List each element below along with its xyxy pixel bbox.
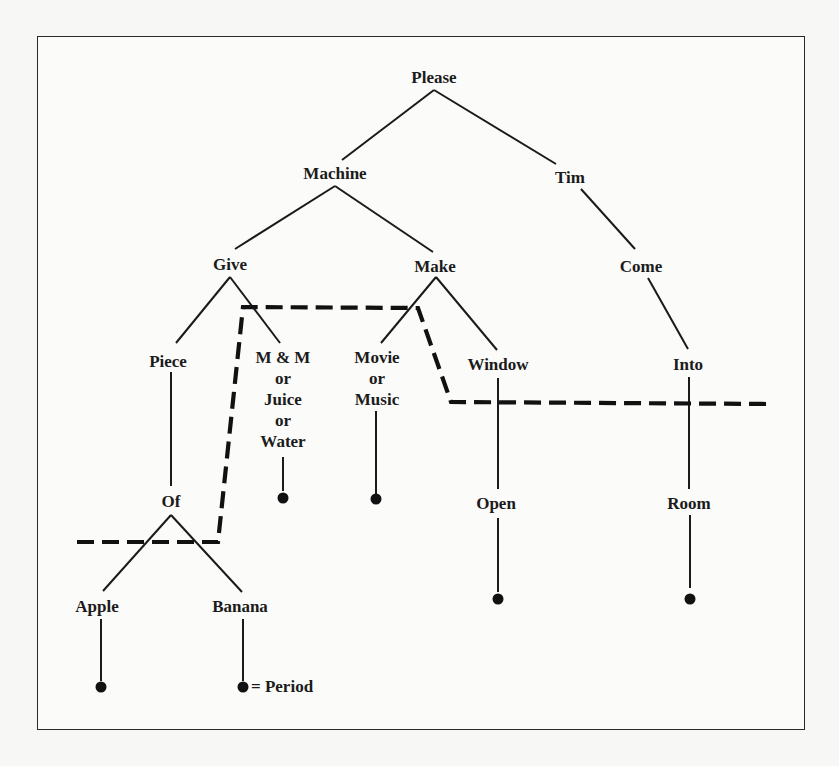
edge-of-banana <box>171 515 242 592</box>
node-piece: Piece <box>149 351 187 372</box>
node-mm-line-3: Juice <box>256 389 311 410</box>
edge-make-window <box>436 277 497 350</box>
edge-of-apple <box>103 515 171 591</box>
node-tim: Tim <box>555 167 585 188</box>
period-dot-mm <box>278 493 289 504</box>
period-dot-banana <box>238 682 249 693</box>
node-apple: Apple <box>75 596 118 617</box>
node-into: Into <box>673 354 703 375</box>
edge-please-machine <box>342 90 434 160</box>
node-movie-music: Movie or Music <box>354 347 399 410</box>
node-mm-juice-water: M & M or Juice or Water <box>256 347 311 452</box>
edge-give-mm <box>230 277 280 343</box>
node-mm-line-1: M & M <box>256 347 311 368</box>
node-movie-line-1: Movie <box>354 347 399 368</box>
node-make: Make <box>414 256 456 277</box>
edge-machine-make <box>335 186 433 252</box>
node-open: Open <box>476 493 516 514</box>
node-banana: Banana <box>212 596 268 617</box>
period-dot-open <box>493 594 504 605</box>
edge-machine-give <box>235 186 335 249</box>
node-movie-line-3: Music <box>354 389 399 410</box>
edge-please-tim <box>434 90 556 164</box>
node-mm-line-5: Water <box>256 431 311 452</box>
node-movie-line-2: or <box>354 368 399 389</box>
node-give: Give <box>213 254 247 275</box>
period-dot-room <box>685 594 696 605</box>
edge-come-into <box>648 278 688 349</box>
edge-give-piece <box>176 277 230 343</box>
node-come: Come <box>620 256 662 277</box>
node-machine: Machine <box>303 163 366 184</box>
node-of: Of <box>162 491 181 512</box>
tree-diagram <box>0 0 839 766</box>
dashed-boundary-line <box>77 307 769 542</box>
node-mm-line-4: or <box>256 410 311 431</box>
edge-tim-come <box>581 189 635 249</box>
node-please: Please <box>411 67 456 88</box>
node-room: Room <box>667 493 710 514</box>
node-window: Window <box>467 354 528 375</box>
period-dot-apple <box>96 682 107 693</box>
legend-period: = Period <box>251 677 313 697</box>
period-dot-movie <box>371 494 382 505</box>
node-mm-line-2: or <box>256 368 311 389</box>
